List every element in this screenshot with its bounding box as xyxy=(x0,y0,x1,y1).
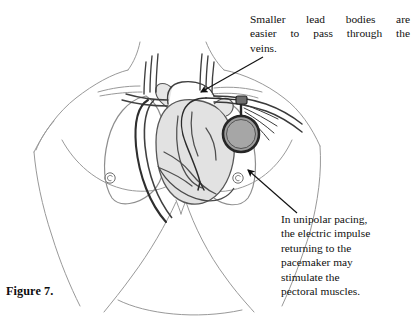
callout-veins-line-1: Smaller lead bodies are xyxy=(250,12,410,26)
callout-unipolar-line-4: pacemaker may xyxy=(281,255,409,269)
callout-unipolar-line-3: returning to the xyxy=(281,241,409,255)
breast-contour xyxy=(62,140,292,192)
figure-container: Smaller lead bodies are easier to pass t… xyxy=(0,0,412,324)
word: easier xyxy=(250,26,277,40)
lead-wire-bundle xyxy=(243,104,278,140)
callout-unipolar-pacing: In unipolar pacing, the electric impulse… xyxy=(281,212,409,298)
word: lead xyxy=(306,12,325,26)
figure-caption: Figure 7. xyxy=(6,284,53,299)
word: to xyxy=(290,26,299,40)
word: are xyxy=(396,12,410,26)
right-lung xyxy=(105,96,166,204)
pacemaker-device xyxy=(223,96,259,152)
callout-unipolar-line-2: the electric impulse xyxy=(281,226,409,240)
callout-unipolar-line-1: In unipolar pacing, xyxy=(281,212,409,226)
heart xyxy=(156,84,235,205)
callout-unipolar-line-6: pectoral muscles. xyxy=(281,284,409,298)
subclavian-vein xyxy=(214,96,302,132)
callout-veins-line-2: easier to pass through the xyxy=(250,26,410,40)
right-nipple xyxy=(233,173,243,183)
word: the xyxy=(396,26,410,40)
word: bodies xyxy=(346,12,376,26)
arrow-to-pectoral xyxy=(248,170,297,213)
torso-outline xyxy=(34,42,321,315)
pacemaker-lead xyxy=(182,98,240,190)
word: veins. xyxy=(250,41,410,55)
pulmonary-trunk xyxy=(144,100,172,218)
word: pass xyxy=(313,26,333,40)
callout-unipolar-line-5: stimulate the xyxy=(281,270,409,284)
arrow-to-veins xyxy=(201,57,263,92)
callout-veins-line-3: veins. xyxy=(250,41,410,55)
word: through xyxy=(347,26,382,40)
left-nipple xyxy=(105,173,115,183)
great-vessels xyxy=(122,54,214,106)
word: Smaller xyxy=(250,12,285,26)
aortic-arch xyxy=(136,100,167,222)
left-lung xyxy=(214,96,255,205)
callout-smaller-lead-bodies: Smaller lead bodies are easier to pass t… xyxy=(250,12,410,55)
